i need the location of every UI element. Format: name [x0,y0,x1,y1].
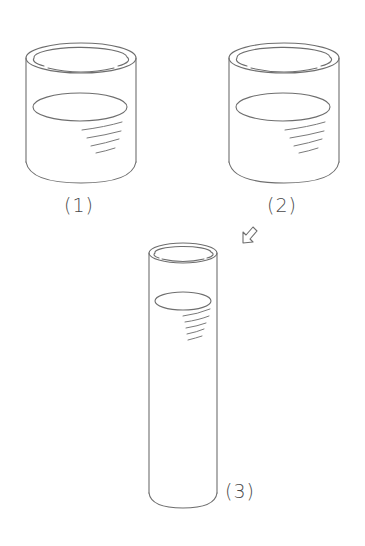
beaker-1 [26,43,136,183]
diagram-canvas [0,0,365,546]
diagram: (1) (2) (3) [0,0,365,546]
liquid-hatching-3 [183,309,210,340]
label-cylinder-3: (3) [225,482,255,501]
liquid-surface-2 [236,93,330,121]
liquid-surface-3 [155,292,211,310]
beaker-2 [229,43,339,183]
hollow-arrow-down-left-icon [243,227,257,243]
cylinder-3 [149,243,217,508]
liquid-hatching-1 [82,122,122,153]
label-beaker-1: (1) [64,196,94,215]
liquid-surface-1 [33,93,127,121]
label-beaker-2: (2) [267,196,297,215]
liquid-hatching-2 [285,122,325,153]
